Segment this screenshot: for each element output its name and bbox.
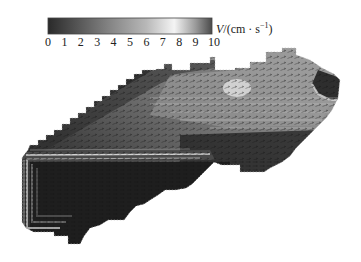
colorbar-tick: 9 (193, 36, 199, 49)
colorbar-tick: 6 (143, 36, 149, 49)
colorbar-ticks: 0 1 2 3 4 5 6 7 8 9 10 (44, 36, 224, 50)
colorbar-tick: 7 (160, 36, 166, 49)
colorbar-tick: 4 (111, 36, 117, 49)
colorbar-tick: 3 (94, 36, 100, 49)
colorbar-label-exponent: −1 (260, 21, 269, 30)
colorbar (48, 18, 212, 34)
colorbar-tick: 1 (61, 36, 67, 49)
colorbar-tick: 5 (127, 36, 133, 49)
colorbar-label: V/(cm · s−1) (216, 21, 273, 37)
velocity-field-figure: 0 1 2 3 4 5 6 7 8 9 10 V/(cm · s−1) (0, 0, 361, 262)
colorbar-tick: 10 (208, 36, 220, 49)
colorbar-label-unit: /(cm · s (223, 22, 260, 36)
velocity-contour-field (0, 30, 361, 262)
colorbar-tick: 2 (78, 36, 84, 49)
colorbar-tick: 8 (176, 36, 182, 49)
colorbar-tick: 0 (45, 36, 51, 49)
colorbar-label-close: ) (269, 22, 273, 36)
